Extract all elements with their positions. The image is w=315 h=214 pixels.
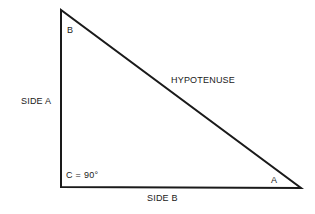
triangle-shape [0, 0, 315, 214]
triangle-outline [61, 10, 301, 188]
right-triangle-diagram: B A C = 90° SIDE A SIDE B HYPOTENUSE [0, 0, 315, 214]
vertex-label-b: B [67, 25, 73, 35]
side-label-b: SIDE B [147, 193, 178, 203]
angle-label-c: C = 90° [66, 170, 98, 180]
hypotenuse-label: HYPOTENUSE [171, 75, 235, 85]
side-label-a: SIDE A [21, 96, 51, 106]
vertex-label-a: A [271, 175, 277, 185]
